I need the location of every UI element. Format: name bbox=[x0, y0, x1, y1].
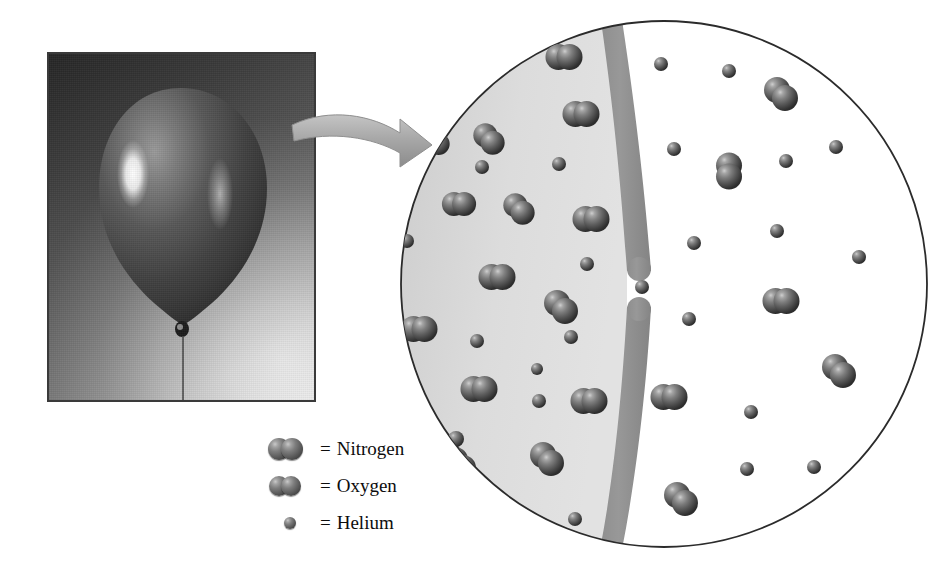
helium-atom bbox=[470, 334, 484, 348]
nitrogen-molecule bbox=[460, 376, 497, 402]
nitrogen-atom bbox=[511, 201, 535, 225]
helium-atom bbox=[829, 140, 843, 154]
legend-label-nitrogen: Nitrogen bbox=[337, 438, 405, 460]
helium-atom bbox=[580, 257, 594, 271]
helium-atom bbox=[532, 394, 546, 408]
helium-atom bbox=[400, 234, 414, 248]
helium-atom bbox=[770, 224, 784, 238]
helium-atom bbox=[531, 363, 543, 375]
legend-equals-helium: = bbox=[320, 512, 331, 534]
nitrogen-atom bbox=[490, 264, 516, 290]
helium-molecule bbox=[475, 160, 489, 174]
helium-molecule bbox=[779, 154, 793, 168]
helium-atom bbox=[475, 160, 489, 174]
legend-label-helium: Helium bbox=[337, 512, 394, 534]
helium-molecule bbox=[829, 140, 843, 154]
oxygen-icon bbox=[262, 471, 320, 501]
oxygen-atom bbox=[584, 206, 610, 232]
helium-molecule bbox=[807, 460, 821, 474]
helium-atom bbox=[682, 312, 696, 326]
legend-equals-nitrogen: = bbox=[320, 438, 331, 460]
balloon-illustration bbox=[49, 54, 314, 400]
helium-molecule bbox=[852, 250, 866, 264]
nitrogen-atom bbox=[450, 455, 476, 481]
helium-atom bbox=[635, 280, 649, 294]
helium-atom bbox=[744, 405, 758, 419]
nitrogen-atom bbox=[481, 131, 505, 155]
helium-atom bbox=[852, 250, 866, 264]
helium-molecule bbox=[654, 57, 668, 71]
balloon-secondary-highlight bbox=[207, 158, 233, 230]
oxygen-atom bbox=[672, 490, 698, 516]
helium-atom bbox=[667, 142, 681, 156]
helium-molecule bbox=[580, 257, 594, 271]
balloon-highlight bbox=[117, 140, 149, 208]
helium-molecule bbox=[722, 64, 736, 78]
nitrogen-molecule bbox=[442, 192, 476, 216]
nitrogen-atom bbox=[538, 450, 564, 476]
oxygen-molecule bbox=[572, 206, 609, 232]
helium-molecule bbox=[568, 512, 582, 526]
helium-atom bbox=[552, 157, 566, 171]
nitrogen-molecule bbox=[650, 384, 687, 410]
helium-molecule bbox=[635, 280, 649, 294]
legend-equals-oxygen: = bbox=[320, 475, 331, 497]
oxygen-atom bbox=[574, 101, 600, 127]
oxygen-atom bbox=[557, 44, 583, 70]
nitrogen-icon bbox=[262, 434, 320, 464]
diagram-canvas: = Nitrogen = Oxygen = Helium bbox=[0, 0, 942, 576]
helium-atom bbox=[654, 57, 668, 71]
legend-label-oxygen: Oxygen bbox=[337, 475, 397, 497]
helium-molecule bbox=[532, 394, 546, 408]
nitrogen-atom bbox=[472, 376, 498, 402]
nitrogen-molecule bbox=[716, 152, 742, 189]
helium-icon bbox=[262, 508, 320, 538]
helium-atom bbox=[740, 462, 754, 476]
helium-atom bbox=[448, 431, 464, 447]
oxygen-atom bbox=[582, 388, 608, 414]
nitrogen-atom bbox=[774, 288, 800, 314]
helium-molecule bbox=[667, 142, 681, 156]
helium-molecule bbox=[400, 234, 414, 248]
helium-atom bbox=[779, 154, 793, 168]
helium-atom bbox=[687, 236, 701, 250]
oxygen-molecule bbox=[545, 44, 582, 70]
nitrogen-molecule bbox=[762, 288, 799, 314]
helium-molecule bbox=[448, 431, 464, 447]
magnified-view-svg bbox=[399, 19, 929, 549]
oxygen-molecule bbox=[562, 101, 599, 127]
helium-molecule bbox=[682, 312, 696, 326]
helium-atom bbox=[568, 512, 582, 526]
oxygen-molecule bbox=[570, 388, 607, 414]
nitrogen-molecule bbox=[418, 133, 449, 155]
nitrogen-atom bbox=[442, 447, 468, 473]
helium-molecule bbox=[552, 157, 566, 171]
nitrogen-atom bbox=[662, 384, 688, 410]
oxygen-atom bbox=[772, 85, 798, 111]
helium-molecule bbox=[744, 405, 758, 419]
nitrogen-atom bbox=[412, 316, 438, 342]
helium-molecule bbox=[770, 224, 784, 238]
nitrogen-atom bbox=[716, 164, 742, 190]
helium-molecule bbox=[687, 236, 701, 250]
nitrogen-atom bbox=[452, 192, 476, 216]
helium-molecule bbox=[564, 330, 578, 344]
helium-atom bbox=[722, 64, 736, 78]
helium-molecule bbox=[740, 462, 754, 476]
balloon-photograph bbox=[47, 52, 316, 402]
balloon-body bbox=[99, 88, 267, 325]
magnified-view bbox=[399, 19, 929, 549]
nitrogen-molecule bbox=[478, 264, 515, 290]
helium-molecule bbox=[531, 363, 543, 375]
oxygen-atom bbox=[552, 298, 578, 324]
helium-atom bbox=[564, 330, 578, 344]
helium-atom bbox=[807, 460, 821, 474]
helium-molecule bbox=[470, 334, 484, 348]
nitrogen-atom bbox=[830, 362, 856, 388]
